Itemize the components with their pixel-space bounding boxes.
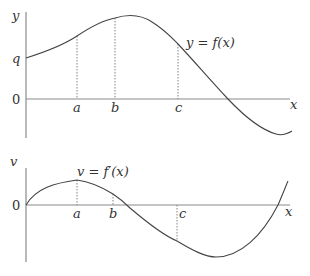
bottom-tick-a: a	[73, 206, 81, 221]
bottom-tick-c: c	[179, 206, 187, 221]
top-origin-label: 0	[12, 92, 20, 107]
bottom-curve-fprime	[26, 180, 288, 257]
top-graph: y q 0 x a b c y = f(x)	[11, 8, 298, 138]
top-x-axis-label: x	[290, 97, 298, 112]
diagram: y q 0 x a b c y = f(x) v 0 x a b c v = f…	[0, 0, 310, 276]
top-tick-c: c	[175, 100, 183, 115]
top-tick-a: a	[73, 100, 81, 115]
top-curve-f	[26, 15, 292, 134]
top-curve-label: y = f(x)	[185, 35, 235, 50]
bottom-origin-label: 0	[12, 198, 20, 213]
top-y-axis-label: y	[11, 8, 20, 23]
top-tick-b: b	[111, 100, 119, 115]
bottom-tick-b: b	[109, 206, 117, 221]
bottom-v-axis-label: v	[10, 154, 18, 169]
bottom-graph: v 0 x a b c v = f′(x)	[10, 154, 293, 262]
bottom-curve-label: v = f′(x)	[77, 164, 129, 179]
bottom-x-axis-label: x	[285, 204, 293, 219]
top-q-label: q	[12, 51, 20, 66]
